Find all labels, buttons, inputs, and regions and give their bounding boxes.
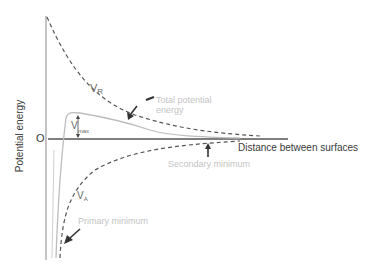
vmax-arrow-up-icon bbox=[76, 115, 80, 119]
total-arrow-dash bbox=[146, 97, 154, 100]
vr-label-sub: R bbox=[97, 87, 103, 96]
origin-label: O bbox=[36, 133, 45, 144]
total-label-line1: Total potential bbox=[156, 96, 212, 105]
secondary-minimum-label: Secondary minimum bbox=[168, 160, 250, 169]
primary-arrow-line bbox=[70, 229, 80, 238]
total-potential-curve bbox=[56, 113, 240, 258]
primary-minimum-label: Primary minimum bbox=[78, 217, 148, 226]
va-label-main: V bbox=[77, 190, 84, 201]
x-axis-label: Distance between surfaces bbox=[238, 143, 358, 153]
y-axis-label: Potential energy bbox=[15, 86, 25, 186]
total-potential-label: Total potential energy bbox=[156, 96, 212, 115]
vmax-label-sub: max bbox=[78, 128, 89, 134]
total-arrow-line bbox=[130, 106, 137, 115]
vmax-label-main: V bbox=[71, 120, 78, 131]
va-label-sub: A bbox=[84, 196, 88, 202]
total-curve-left-branch bbox=[52, 150, 54, 258]
vmax-label: Vmax bbox=[71, 121, 89, 131]
vr-label: VR bbox=[90, 83, 103, 94]
va-label: VA bbox=[77, 191, 88, 201]
total-label-line2: energy bbox=[156, 106, 212, 115]
y-axis-label-text: Potential energy bbox=[14, 100, 25, 172]
vmax-arrow-down-icon bbox=[76, 134, 80, 138]
diagram-canvas bbox=[0, 0, 368, 273]
